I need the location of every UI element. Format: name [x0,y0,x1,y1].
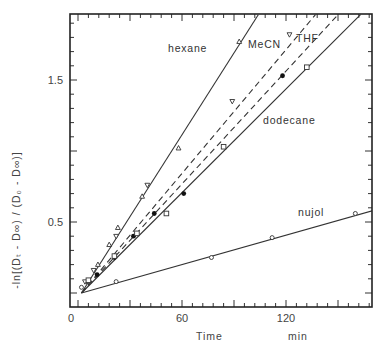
x-tick-label: 0 [68,312,74,324]
hexane-fit-line [81,15,258,293]
dodecane-data-point [112,254,117,259]
thf-data-point [152,211,157,216]
x-axis-unit: min [288,330,308,342]
dodecane-data-point [86,278,91,283]
dodecane-data-point [221,144,226,149]
nujol-fit-line [81,211,372,293]
nujol-data-point [79,285,83,289]
dodecane-label: dodecane [263,114,316,126]
hexane-data-point [96,262,101,266]
mecn-fit-line [81,15,315,293]
thf-data-point [181,191,186,196]
hexane-data-point [237,39,242,43]
dodecane-data-point [164,211,169,216]
hexane-data-point [115,225,120,229]
data-markers [79,33,357,290]
nujol-data-point [114,280,118,284]
mecn-data-point [114,234,119,238]
dodecane-data-point [305,65,310,70]
axis-ticks [70,14,372,307]
hexane-data-point [176,146,181,150]
nujol-label: nujol [298,206,324,218]
chart: hexaneMeCNTHFdodecanenujol 0601200.51.5 … [0,0,383,364]
mecn-label: MeCN [248,38,281,50]
hexane-data-point [107,242,112,246]
nujol-data-point [353,211,357,215]
hexane-label: hexane [168,42,207,54]
y-axis-title: -ln[(Dₜ - D∞) / (D₀ - D∞)] [10,151,22,289]
nujol-data-point [209,256,213,260]
y-tick-label: 1.5 [48,74,63,86]
dodecane-data-point [135,231,140,236]
tick-labels: 0601200.51.5 [48,74,295,324]
y-tick-label: 0.5 [48,216,63,228]
thf-label: THF [296,32,319,44]
thf-data-point [280,73,285,78]
mecn-data-point [230,100,235,104]
nujol-data-point [270,236,274,240]
dodecane-fit-line [81,15,360,293]
x-tick-label: 60 [176,312,188,324]
series-labels: hexaneMeCNTHFdodecanenujol [168,32,324,218]
plot-frame [70,14,372,307]
thf-data-point [95,272,100,277]
x-axis-title: Time [196,330,223,342]
x-tick-label: 120 [277,312,295,324]
thf-fit-line [81,15,338,293]
mecn-data-point [287,33,292,37]
fit-lines [81,15,372,293]
